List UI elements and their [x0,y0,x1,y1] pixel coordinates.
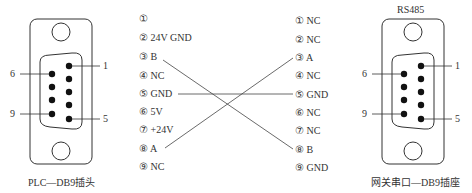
right-pin-7: ⑦ NC [295,125,320,137]
left-pin-3: ③ B [139,51,157,63]
right-pin-9: ⑨ GND [295,162,328,174]
right-pin-number-1: 1 [455,60,460,71]
right-pin-4: ④ NC [295,70,320,82]
right-pin-number-6: 6 [362,68,367,79]
left-pin-number-9: 9 [10,108,15,119]
left-pin-number-6: 6 [10,68,15,79]
left-pin-8: ⑧ A [139,143,157,155]
left-pins [49,63,72,122]
right-pin-6: ⑥ NC [295,107,320,119]
left-pin-4: ④ NC [139,70,164,82]
wiring-diagram [0,0,472,193]
left-connector-caption: PLC—DB9插头 [28,174,95,189]
left-db9-plug [30,19,92,164]
right-connector-title: RS485 [397,4,424,15]
left-pin-5: ⑤ GND [139,88,172,100]
right-pin-1: ① NC [295,15,320,27]
left-pin-2: ② 24V GND [139,32,192,44]
right-pin-2: ② NC [295,34,320,46]
right-pin-5: ⑤ GND [295,89,328,101]
left-pin-7: ⑦ +24V [139,124,173,136]
left-pin-6: ⑥ 5V [139,106,163,118]
right-db9-socket [382,19,444,164]
right-pin-number-5: 5 [455,113,460,124]
left-pin-number-5: 5 [103,113,108,124]
right-connector-caption: 网关串口—DB9插座 [371,174,460,189]
connection-lines [163,58,293,149]
right-pin-3: ③ A [295,52,313,64]
left-pin-number-1: 1 [103,60,108,71]
left-pin-1: ① [139,13,148,25]
right-pins [401,63,424,122]
left-pin-9: ⑨ NC [139,161,164,173]
right-pin-number-9: 9 [362,108,367,119]
right-pin-8: ⑧ B [295,144,313,156]
